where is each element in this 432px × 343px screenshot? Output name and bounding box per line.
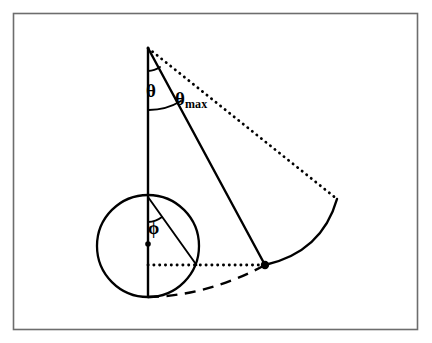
theta-max-subscript: max [185,97,208,111]
theta-max-label: θmax [175,89,208,110]
diagram-svg [0,0,432,343]
phi-label: ϕ [148,219,159,237]
theta-max-base: θ [175,88,185,109]
diagram-canvas: θ θmax ϕ [0,0,432,343]
theta-label: θ [146,81,156,100]
node-dot [261,261,269,269]
circle-center-dot [145,241,151,247]
